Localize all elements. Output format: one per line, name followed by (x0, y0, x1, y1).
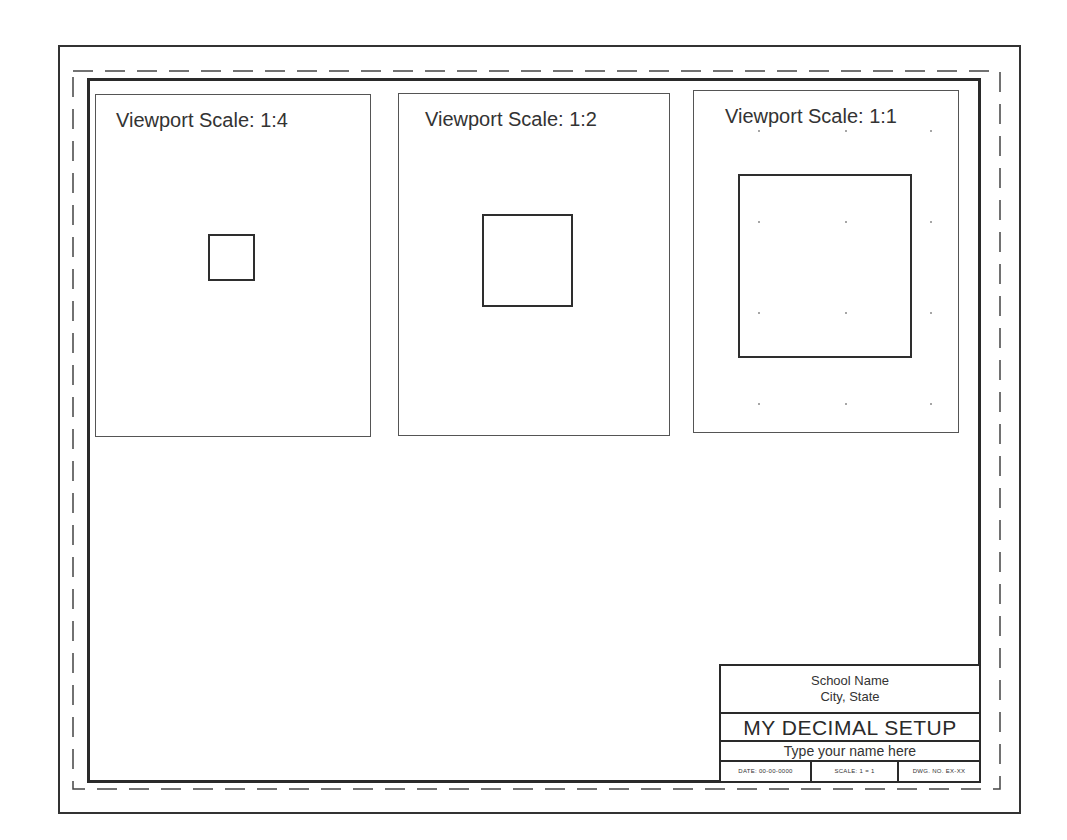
grid-dot (845, 130, 847, 132)
grid-dot (758, 403, 760, 405)
city-state: City, State (721, 689, 979, 705)
title-block: School Name City, State MY DECIMAL SETUP… (719, 664, 981, 783)
viewport-title: Viewport Scale: 1:1 (725, 105, 958, 128)
viewport-title: Viewport Scale: 1:4 (116, 109, 370, 132)
square-shape-1-4[interactable] (208, 234, 255, 281)
grid-dot (930, 312, 932, 314)
viewport-title: Viewport Scale: 1:2 (425, 108, 669, 131)
square-shape-1-1[interactable] (738, 174, 912, 358)
grid-dot (930, 130, 932, 132)
drawing-title: MY DECIMAL SETUP (721, 714, 979, 742)
grid-dot (758, 312, 760, 314)
drawing-number-cell: DWG. NO. EX-XX (897, 762, 979, 783)
student-name-field[interactable]: Type your name here (721, 742, 979, 762)
grid-dot (845, 403, 847, 405)
grid-dot (845, 312, 847, 314)
grid-dot (930, 221, 932, 223)
square-shape-1-2[interactable] (482, 214, 573, 307)
date-cell: DATE: 00-00-0000 (721, 762, 810, 783)
school-name: School Name (721, 673, 979, 689)
grid-dot (758, 130, 760, 132)
title-block-school: School Name City, State (721, 666, 979, 714)
grid-dot (758, 221, 760, 223)
scale-cell: SCALE: 1 = 1 (810, 762, 897, 783)
grid-dot (845, 221, 847, 223)
grid-dot (930, 403, 932, 405)
title-block-footer: DATE: 00-00-0000 SCALE: 1 = 1 DWG. NO. E… (721, 762, 979, 783)
